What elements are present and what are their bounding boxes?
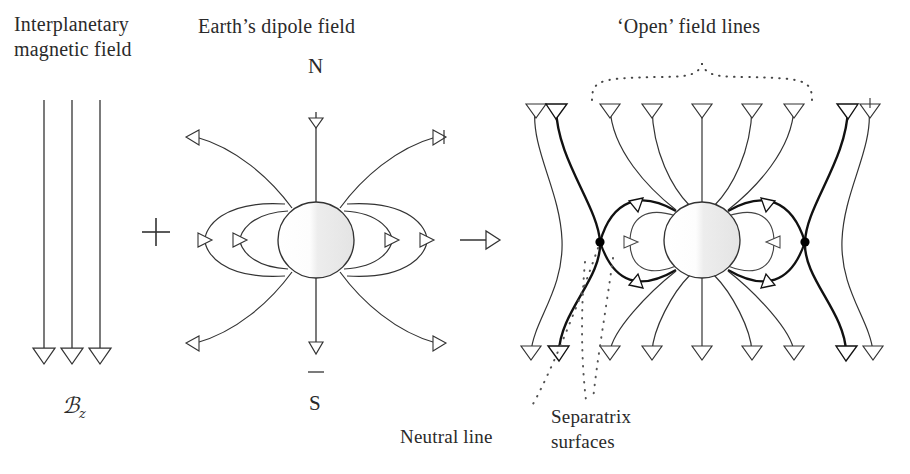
- north-pole-text: N: [308, 54, 323, 78]
- neutral-point-right: [800, 237, 809, 246]
- dipole-title-text: Earth’s dipole field: [198, 15, 355, 37]
- leader-separatrix-b: [593, 258, 613, 400]
- earth-sphere-dipole: [278, 202, 354, 278]
- annotation-separatrix-1: Separatrix: [551, 404, 631, 429]
- panel-imf-fieldlines: [44, 100, 100, 348]
- panel-dipole: [186, 112, 446, 372]
- earth-sphere-open: [664, 202, 740, 278]
- imf-title-line1: Interplanetary: [14, 13, 129, 35]
- panel-open-field: [521, 64, 883, 404]
- neutral-line-text: Neutral line: [400, 426, 493, 447]
- panel-imf-title-2: magnetic field: [14, 37, 132, 62]
- pole-label-south: S: [309, 391, 321, 416]
- magnetosphere-diagram: [0, 0, 910, 474]
- panel-imf-title: Interplanetary: [14, 12, 129, 37]
- south-pole-text: S: [309, 391, 321, 415]
- leader-separatrix-a: [582, 262, 586, 400]
- panel-imf-arrowheads: [33, 348, 111, 364]
- panel-dipole-title: Earth’s dipole field: [198, 14, 355, 39]
- panel-open-title: ‘Open’ field lines: [617, 14, 760, 39]
- open-title-text: ‘Open’ field lines: [617, 15, 760, 37]
- pole-label-north: N: [308, 54, 323, 79]
- separatrix-text-1: Separatrix: [551, 406, 631, 427]
- arrow-operator-glyph: [460, 231, 500, 249]
- annotation-separatrix-2: surfaces: [551, 429, 615, 454]
- annotation-neutral-line: Neutral line: [400, 424, 493, 449]
- dotted-brace: [592, 64, 812, 100]
- bz-symbol: ℬz: [62, 393, 86, 421]
- imf-title-line2: magnetic field: [14, 38, 132, 60]
- plus-operator-glyph: [142, 218, 170, 246]
- bz-base: ℬ: [62, 393, 79, 418]
- neutral-point-left: [595, 237, 604, 246]
- bz-subscript: z: [79, 406, 86, 421]
- separatrix-text-2: surfaces: [551, 431, 615, 452]
